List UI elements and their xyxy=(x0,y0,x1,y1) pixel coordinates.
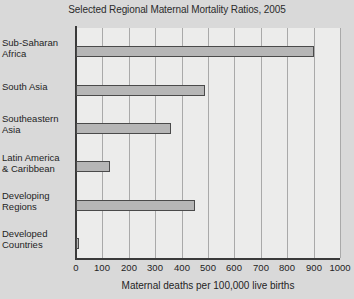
x-tick-label: 200 xyxy=(121,262,137,273)
category-label-line: Africa xyxy=(2,48,74,59)
category-label-line: Southeastern xyxy=(2,113,74,124)
x-tick-label: 500 xyxy=(200,262,216,273)
x-tick-label: 600 xyxy=(226,262,242,273)
category-label-line: Sub-Saharan xyxy=(2,37,74,48)
bar xyxy=(76,123,171,134)
category-label-line: Latin America xyxy=(2,152,74,163)
x-tick-label: 900 xyxy=(306,262,322,273)
gridline xyxy=(102,28,103,258)
category-label: Sub-SaharanAfrica xyxy=(2,37,74,59)
x-tick-label: 800 xyxy=(279,262,295,273)
bar xyxy=(76,200,195,211)
category-label: South Asia xyxy=(2,81,74,92)
bar xyxy=(76,85,205,96)
x-tick-label: 100 xyxy=(94,262,110,273)
category-label-line: Developed xyxy=(2,228,74,239)
category-label-line: Regions xyxy=(2,201,74,212)
chart-title: Selected Regional Maternal Mortality Rat… xyxy=(0,4,354,15)
category-label: SoutheasternAsia xyxy=(2,113,74,135)
gridline xyxy=(208,28,209,258)
category-label-line: South Asia xyxy=(2,81,74,92)
x-tick-label: 400 xyxy=(174,262,190,273)
category-label: DevelopingRegions xyxy=(2,190,74,212)
category-label: DevelopedCountries xyxy=(2,228,74,250)
category-label-line: Developing xyxy=(2,190,74,201)
gridline xyxy=(340,28,341,258)
gridline xyxy=(234,28,235,258)
x-axis-spine xyxy=(75,258,340,260)
category-label: Latin America& Caribbean xyxy=(2,152,74,174)
gridline xyxy=(261,28,262,258)
maternal-mortality-bar-chart: Selected Regional Maternal Mortality Rat… xyxy=(0,0,354,299)
category-label-line: Asia xyxy=(2,124,74,135)
y-axis-spine xyxy=(75,26,77,260)
bar xyxy=(76,238,79,249)
x-tick-label: 700 xyxy=(253,262,269,273)
bar xyxy=(76,46,314,57)
x-tick-label: 300 xyxy=(147,262,163,273)
x-axis-title: Maternal deaths per 100,000 live births xyxy=(76,280,340,291)
category-label-line: Countries xyxy=(2,239,74,250)
gridline xyxy=(182,28,183,258)
gridline xyxy=(129,28,130,258)
gridline xyxy=(287,28,288,258)
category-label-line: & Caribbean xyxy=(2,163,74,174)
gridline xyxy=(155,28,156,258)
x-tick-label: 1000 xyxy=(329,262,350,273)
x-tick-label: 0 xyxy=(73,262,78,273)
bar xyxy=(76,161,110,172)
gridline xyxy=(314,28,315,258)
